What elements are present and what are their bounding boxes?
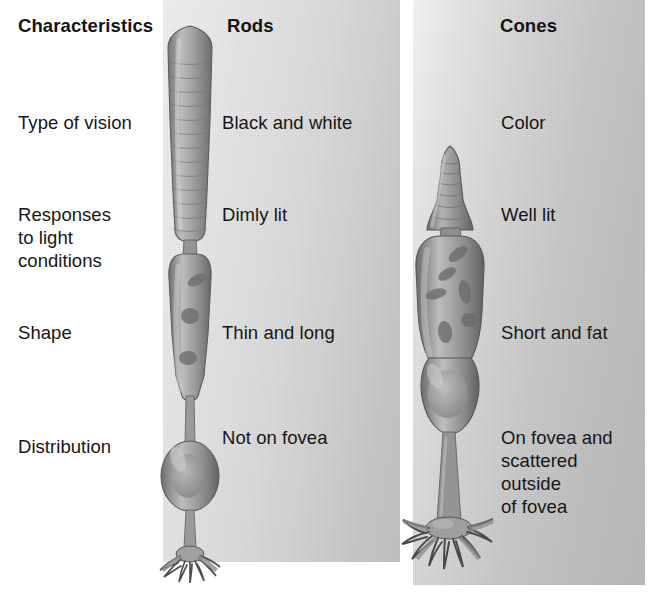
rod-outer-segment bbox=[168, 26, 212, 242]
header-characteristics: Characteristics bbox=[18, 15, 153, 37]
rod-axon-lower bbox=[184, 510, 196, 548]
cones-value-responses-to-light: Well lit bbox=[501, 203, 556, 226]
cone-cell-illustration bbox=[405, 142, 495, 587]
rods-value-shape: Thin and long bbox=[222, 321, 335, 344]
rods-value-responses-to-light: Dimly lit bbox=[222, 203, 287, 226]
row-label-type-of-vision: Type of vision bbox=[18, 111, 132, 134]
rods-value-type-of-vision: Black and white bbox=[222, 111, 352, 134]
rod-axon-upper bbox=[185, 396, 195, 444]
row-label-responses-to-light: Responses to light conditions bbox=[18, 203, 111, 272]
row-label-shape: Shape bbox=[18, 321, 72, 344]
rod-synaptic-terminal bbox=[160, 546, 220, 583]
row-label-distribution: Distribution bbox=[18, 435, 111, 458]
header-cones: Cones bbox=[500, 15, 557, 37]
rods-value-distribution: Not on fovea bbox=[222, 426, 328, 449]
cones-value-distribution: On fovea and scattered outside of fovea bbox=[501, 426, 613, 518]
rods-vs-cones-figure: Characteristics Rods Cones Type of visio… bbox=[0, 0, 659, 597]
header-rods: Rods bbox=[227, 15, 274, 37]
cones-value-shape: Short and fat bbox=[501, 321, 608, 344]
cones-value-type-of-vision: Color bbox=[501, 111, 545, 134]
cone-synaptic-pedicle bbox=[402, 517, 494, 569]
rod-cell-illustration bbox=[150, 24, 230, 584]
